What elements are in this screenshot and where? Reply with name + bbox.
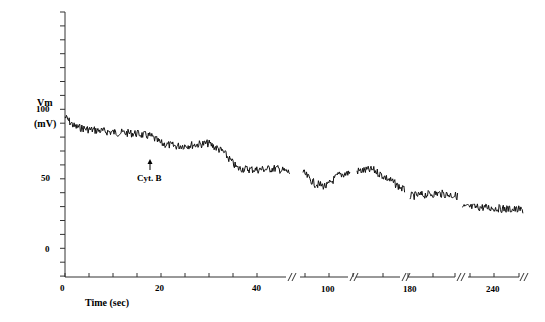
x-axis-title: Time (sec)	[85, 297, 129, 308]
membrane-potential-chart	[0, 0, 545, 322]
y-tick-label-0: 0	[45, 244, 50, 254]
x-tick-label-20: 20	[155, 283, 164, 293]
voltage-trace	[65, 115, 523, 213]
y-tick-label-50: 50	[41, 173, 50, 183]
x-tick-label-180: 180	[403, 284, 417, 294]
cyt-b-arrow-icon	[148, 159, 153, 170]
x-tick-label-40: 40	[252, 283, 261, 293]
y-tick-label-100: 100	[36, 104, 50, 114]
x-tick-label-100: 100	[321, 284, 335, 294]
cyt-b-annotation: Cyt. B	[137, 173, 162, 183]
y-axis-unit: (mV)	[34, 118, 56, 129]
x-tick-label-240: 240	[486, 284, 500, 294]
x-tick-label-0: 0	[60, 283, 65, 293]
axes	[60, 12, 528, 281]
